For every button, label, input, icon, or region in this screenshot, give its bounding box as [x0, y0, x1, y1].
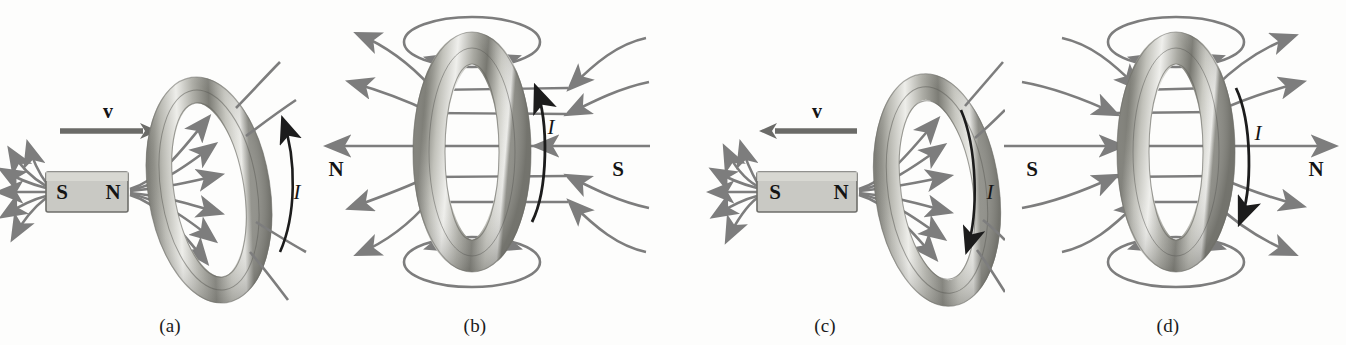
current-label: I: [547, 115, 556, 139]
magnet-pole-left-label: S: [769, 180, 781, 204]
fringe-field-lines-left: [711, 144, 758, 240]
panel-d-illustration: S N I: [990, 0, 1346, 345]
pole-label-left: N: [328, 157, 343, 181]
induction-figure: S N v: [0, 0, 1346, 345]
velocity-arrow: v: [60, 100, 158, 139]
conducting-ring: [131, 68, 287, 312]
induced-current-arc: I: [280, 120, 302, 252]
field-lines-right-incoming: [536, 38, 650, 252]
velocity-label: v: [103, 100, 113, 122]
panel-b: N S I (b): [300, 0, 650, 345]
panel-c-illustration: S N v: [645, 0, 1005, 345]
pole-label-left: S: [1026, 157, 1038, 181]
magnet-pole-right-label: N: [105, 180, 120, 204]
fringe-field-lines-left: [0, 144, 47, 238]
pole-label-right: S: [612, 157, 624, 181]
velocity-arrow: v: [759, 100, 857, 139]
magnet-pole-left-label: S: [56, 180, 68, 204]
bar-magnet: S N: [757, 172, 857, 212]
bar-magnet: S N: [46, 172, 128, 212]
panel-c-caption: (c): [645, 315, 1005, 337]
pole-label-right: N: [1308, 157, 1323, 181]
conducting-ring: [859, 66, 1005, 315]
panel-a-caption: (a): [0, 315, 340, 337]
panel-b-caption: (b): [300, 315, 650, 337]
induced-current-arc: I: [1236, 88, 1263, 222]
panel-d-caption: (d): [990, 315, 1346, 337]
panel-a: S N v: [0, 0, 340, 345]
panel-a-illustration: S N v: [0, 0, 340, 345]
current-label: I: [1254, 121, 1263, 145]
panel-c: S N v: [645, 0, 1005, 345]
panel-b-illustration: N S I: [300, 0, 650, 345]
magnet-pole-right-label: N: [833, 180, 848, 204]
velocity-label: v: [812, 100, 822, 122]
panel-d: S N I (d): [990, 0, 1346, 345]
